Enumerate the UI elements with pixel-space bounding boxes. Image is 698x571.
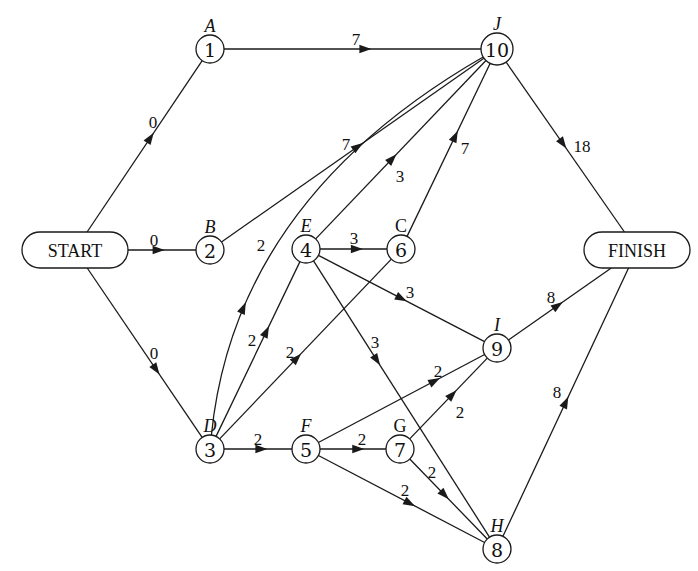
node-number: 4 bbox=[300, 239, 312, 261]
edge-weight-label: 2 bbox=[358, 430, 367, 449]
edge-weight-label: 3 bbox=[396, 167, 405, 186]
node-number: 6 bbox=[395, 239, 407, 261]
node-a: 1A bbox=[196, 16, 224, 63]
edge-weight-label: 2 bbox=[286, 343, 295, 362]
edge-weight-label: 7 bbox=[352, 30, 361, 49]
edge-weight-label: 2 bbox=[248, 331, 257, 350]
edge-weight-label: 3 bbox=[371, 333, 380, 352]
node-letter-label: H bbox=[490, 516, 505, 536]
arrowhead-icon bbox=[556, 136, 566, 148]
arrowhead-icon bbox=[359, 45, 371, 53]
edge-weight-label: 2 bbox=[254, 430, 263, 449]
node-number: 8 bbox=[491, 539, 503, 561]
node-g: 7G bbox=[386, 416, 414, 463]
terminal-label: FINISH bbox=[608, 241, 666, 261]
node-letter-label: D bbox=[203, 416, 217, 436]
arrowhead-icon bbox=[260, 326, 269, 339]
node-letter-label: J bbox=[493, 14, 502, 34]
node-number: 9 bbox=[491, 338, 503, 360]
edge-weight-label: 0 bbox=[150, 344, 159, 363]
edge-weight-label: 2 bbox=[257, 236, 266, 255]
terminal-label: START bbox=[48, 241, 102, 261]
arrowhead-icon bbox=[449, 131, 458, 144]
node-number: 7 bbox=[394, 439, 406, 461]
edge-weight-label: 2 bbox=[401, 481, 410, 500]
arrowhead-icon bbox=[237, 302, 246, 315]
node-letter-label: F bbox=[300, 416, 313, 436]
node-letter-label: G bbox=[394, 416, 407, 436]
node-j: 10J bbox=[481, 14, 513, 65]
edge-weight-label: 3 bbox=[406, 283, 415, 302]
node-i: 9I bbox=[483, 315, 511, 362]
node-c: 6C bbox=[387, 216, 415, 263]
node-number: 1 bbox=[204, 39, 216, 61]
edge-weight-label: 3 bbox=[350, 229, 359, 248]
edge-2-to-10 bbox=[221, 58, 483, 242]
edge-3-to-10 bbox=[211, 57, 483, 435]
node-letter-label: I bbox=[493, 315, 501, 335]
node-number: 2 bbox=[204, 240, 216, 262]
edge-weight-label: 2 bbox=[428, 463, 437, 482]
nodes-layer: STARTFINISH1A2B3D4E5F6C7G8H9I10J bbox=[22, 14, 690, 563]
edge-weight-label: 18 bbox=[574, 137, 591, 156]
terminal-start: START bbox=[22, 232, 128, 268]
node-letter-label: B bbox=[205, 217, 216, 237]
arrowhead-icon bbox=[149, 362, 159, 374]
node-f: 5F bbox=[292, 416, 320, 463]
edge-weight-label: 7 bbox=[461, 139, 470, 158]
node-number: 10 bbox=[485, 39, 509, 61]
edge-weight-label: 7 bbox=[342, 135, 351, 154]
arrowhead-icon bbox=[144, 133, 154, 145]
arrowhead-icon bbox=[370, 353, 380, 365]
node-letter-label: E bbox=[300, 216, 312, 236]
edge-3-to-6 bbox=[220, 259, 392, 439]
node-d: 3D bbox=[196, 416, 224, 463]
edge-weight-label: 2 bbox=[456, 403, 465, 422]
edge-6-to-10 bbox=[407, 63, 490, 236]
edge-start-to-3 bbox=[87, 268, 202, 437]
node-b: 2B bbox=[196, 217, 224, 264]
node-number: 3 bbox=[204, 439, 216, 461]
terminal-finish: FINISH bbox=[584, 232, 690, 268]
node-letter-label: A bbox=[204, 16, 217, 36]
edge-weight-label: 2 bbox=[434, 362, 443, 381]
node-letter-label: C bbox=[395, 216, 407, 236]
edge-weight-label: 8 bbox=[547, 288, 556, 307]
activity-network-diagram: 00077237183223322222288 STARTFINISH1A2B3… bbox=[0, 0, 698, 571]
node-e: 4E bbox=[292, 216, 320, 263]
edge-start-to-1 bbox=[87, 61, 202, 232]
edge-weight-label: 0 bbox=[150, 231, 159, 250]
node-number: 5 bbox=[300, 439, 312, 461]
node-h: 8H bbox=[483, 516, 511, 563]
edge-weight-label: 8 bbox=[553, 383, 562, 402]
edge-weight-label: 0 bbox=[149, 113, 158, 132]
